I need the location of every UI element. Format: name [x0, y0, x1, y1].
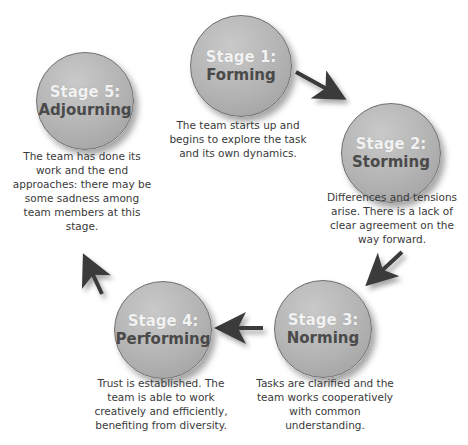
- arrow-2-to-3: [374, 252, 402, 278]
- stage-name: Forming: [206, 66, 276, 84]
- stage-2-circle: Stage 2: Storming: [341, 103, 441, 203]
- stage-5-description: The team has done its work and the end a…: [12, 149, 152, 233]
- arrow-1-to-2: [296, 72, 336, 94]
- stage-3-circle: Stage 3: Norming: [274, 280, 372, 378]
- stage-1-circle: Stage 1: Forming: [190, 15, 292, 117]
- stage-number: Stage 5:: [50, 83, 121, 101]
- stage-number: Stage 2:: [356, 135, 427, 153]
- stage-4-description: Trust is established. The team is able t…: [86, 376, 236, 432]
- stage-name: Adjourning: [38, 101, 131, 119]
- stage-2-description: Differences and tensions arise. There is…: [326, 190, 458, 246]
- stage-number: Stage 3:: [288, 311, 359, 329]
- stage-name: Storming: [352, 153, 430, 171]
- stage-1-description: The team starts up and begins to explore…: [163, 118, 313, 160]
- stage-3-description: Tasks are clarified and the team works c…: [250, 376, 400, 432]
- stage-4-circle: Stage 4: Performing: [114, 281, 212, 379]
- stage-name: Performing: [116, 330, 211, 348]
- stage-name: Norming: [287, 329, 359, 347]
- stage-number: Stage 1:: [206, 48, 277, 66]
- arrow-4-to-5: [88, 264, 102, 294]
- stage-5-circle: Stage 5: Adjourning: [36, 52, 134, 150]
- stage-number: Stage 4:: [128, 312, 199, 330]
